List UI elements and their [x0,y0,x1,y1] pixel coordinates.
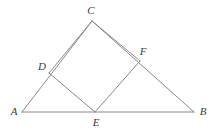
square-edge-ED [49,73,95,112]
square-edge-CF [92,21,140,61]
side-AC [22,21,92,112]
vertex-label-F: F [140,46,147,57]
geometry-canvas [0,0,216,131]
vertex-label-A: A [11,106,18,117]
geometry-figure: A B C D E F [0,0,216,131]
vertex-label-E: E [93,117,100,128]
vertex-label-C: C [87,5,94,16]
square-edge-FE [95,61,140,112]
vertex-label-D: D [38,61,46,72]
segment-group [22,21,194,112]
vertex-label-B: B [200,106,207,117]
square-edge-DC [49,21,92,73]
